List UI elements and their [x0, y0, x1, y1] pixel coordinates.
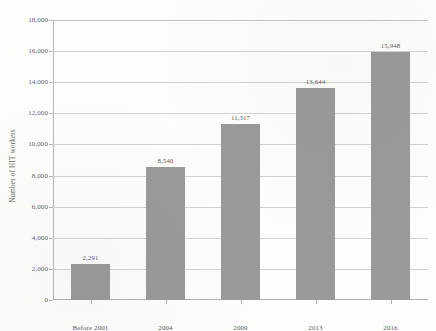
bar — [371, 52, 410, 300]
x-tick-label: 2013 — [308, 324, 322, 331]
bar-value-label: 13,644 — [306, 78, 325, 85]
x-tick-label: Before 2001 — [73, 324, 109, 331]
y-tick-label: 0 — [44, 296, 48, 304]
y-tick-label: 14,000 — [28, 78, 48, 86]
y-tick-mark — [49, 300, 53, 301]
x-tick-label: 2009 — [233, 324, 247, 331]
bar — [296, 88, 335, 300]
bar-chart: Number of HIT workers 02,0004,0006,0008,… — [0, 0, 436, 331]
y-tick-label: 12,000 — [28, 109, 48, 117]
bar-series: 2,2918,54011,31713,64415,948 — [53, 20, 428, 300]
bar-value-label: 11,317 — [231, 114, 250, 121]
y-tick-label: 18,000 — [28, 16, 48, 24]
y-tick-label: 2,000 — [32, 265, 48, 273]
y-tick-label: 8,000 — [32, 172, 48, 180]
y-axis-title: Number of HIT workers — [4, 0, 22, 331]
bar — [71, 264, 110, 300]
bar-item: 11,317 — [221, 20, 260, 300]
plot-area: 02,0004,0006,0008,00010,00012,00014,0001… — [53, 20, 428, 300]
bar — [221, 124, 260, 300]
y-tick-label: 16,000 — [28, 47, 48, 55]
x-tick-mark — [391, 300, 392, 304]
x-tick-mark — [91, 300, 92, 304]
x-tick-label: 2004 — [158, 324, 172, 331]
x-tick-mark — [316, 300, 317, 304]
y-tick-label: 10,000 — [28, 140, 48, 148]
bar-item: 13,644 — [296, 20, 335, 300]
bar-value-label: 2,291 — [83, 254, 99, 261]
x-tick-label: 2016 — [383, 324, 397, 331]
bar-value-label: 8,540 — [158, 157, 174, 164]
x-tick-mark — [166, 300, 167, 304]
y-tick-label: 4,000 — [32, 234, 48, 242]
bar-item: 8,540 — [146, 20, 185, 300]
bar-item: 2,291 — [71, 20, 110, 300]
bar-value-label: 15,948 — [381, 42, 400, 49]
y-axis-title-label: Number of HIT workers — [9, 129, 17, 203]
x-tick-mark — [241, 300, 242, 304]
y-tick-label: 6,000 — [32, 203, 48, 211]
bar — [146, 167, 185, 300]
bar-item: 15,948 — [371, 20, 410, 300]
